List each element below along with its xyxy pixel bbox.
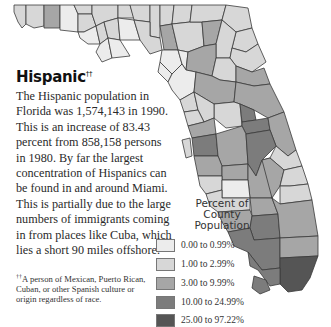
- legend-item: 3.00 to 9.99%: [156, 276, 234, 290]
- legend-item: 0.00 to 0.99%: [156, 238, 234, 252]
- legend-swatch-2: [156, 277, 175, 290]
- county-broward: [280, 236, 318, 258]
- county-desoto: [222, 180, 250, 198]
- county-okaloosa: [44, 5, 60, 28]
- legend-title: Percent of County Population: [176, 198, 268, 231]
- footnote-text: A person of Mexican, Puerto Rican, Cuban…: [16, 274, 145, 304]
- county-lake: [214, 102, 242, 128]
- description-paragraph: The Hispanic population in Florida was 1…: [16, 89, 174, 258]
- legend-swatch-0: [156, 239, 175, 252]
- county-hamilton: [172, 5, 192, 24]
- legend-title-line3: Population: [176, 220, 268, 231]
- county-pinellas: [182, 138, 192, 158]
- county-walton: [60, 5, 78, 32]
- legend-item: 10.00 to 24.99%: [156, 295, 244, 309]
- legend-swatch-4: [156, 314, 175, 327]
- legend-item: 25.00 to 97.22%: [156, 313, 244, 327]
- county-jefferson: [150, 5, 160, 38]
- county-hillsborough: [192, 134, 218, 156]
- county-leon: [130, 5, 150, 22]
- footnote: ††A person of Mexican, Puerto Rican, Cub…: [16, 271, 156, 304]
- legend-label: 0.00 to 0.99%: [181, 240, 234, 250]
- legend-label: 10.00 to 24.99%: [181, 297, 244, 307]
- legend-swatch-1: [156, 258, 175, 271]
- title-text: Hispanic: [16, 68, 86, 86]
- section-title: Hispanic††: [16, 68, 92, 86]
- legend-label: 25.00 to 97.22%: [181, 315, 244, 325]
- county-polk: [216, 126, 248, 166]
- legend-swatch-3: [156, 296, 175, 309]
- county-hardee: [222, 164, 248, 180]
- county-franklin: [108, 38, 130, 58]
- county-baker: [190, 5, 226, 22]
- title-footnote-marker: ††: [86, 70, 92, 78]
- legend-item: 1.00 to 2.99%: [156, 257, 234, 271]
- legend-label: 1.00 to 2.99%: [181, 259, 234, 269]
- county-dade: [280, 256, 318, 292]
- county-santa-rosa: [26, 5, 44, 28]
- legend-label: 3.00 to 9.99%: [181, 278, 234, 288]
- county-escambia: [14, 5, 26, 28]
- county-manatee: [194, 156, 222, 176]
